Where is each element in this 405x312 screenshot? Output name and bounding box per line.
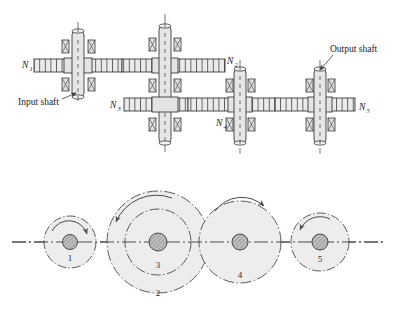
gear-n3	[124, 97, 188, 112]
gear-n2	[122, 58, 225, 73]
gear-label-n1-subscript: 1	[30, 65, 33, 72]
gear-train-figure: N 1 N 2 N 3 N 4 N 5 Input shaft Output s…	[0, 0, 405, 312]
hub-3	[149, 233, 167, 251]
input-shaft-label: Input shaft	[18, 97, 59, 107]
circle-number-2: 2	[156, 288, 161, 298]
circle-number-3: 3	[156, 260, 161, 270]
gear-label-n1-base: N	[21, 60, 29, 70]
hub-5	[312, 234, 328, 250]
gear-n4	[188, 97, 275, 112]
circle-number-4: 4	[238, 270, 243, 280]
circle-number-1: 1	[68, 253, 73, 263]
gear-label-n5-base: N	[358, 102, 366, 112]
gear-label-n4-base: N	[215, 118, 223, 128]
gear-label-n3-base: N	[109, 100, 117, 110]
output-shaft-label: Output shaft	[330, 44, 378, 54]
hub-1	[63, 235, 78, 250]
gear-label-n2-base: N	[226, 56, 234, 66]
hub-4	[232, 234, 248, 250]
circle-number-5: 5	[318, 254, 323, 264]
